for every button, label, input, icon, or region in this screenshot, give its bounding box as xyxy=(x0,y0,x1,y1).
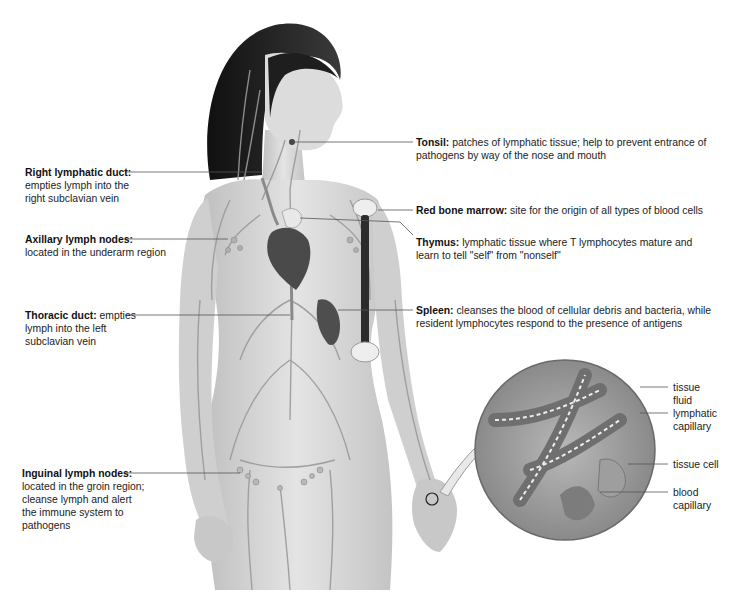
inset-label-blood-capillary: blood capillary xyxy=(673,486,711,512)
lymphatic-system-diagram: Right lymphatic duct: empties lymph into… xyxy=(0,0,736,601)
label-tonsil: Tonsil: patches of lymphatic tissue; hel… xyxy=(416,136,736,162)
label-title: Tonsil: xyxy=(416,137,449,148)
label-axillary-lymph-nodes: Axillary lymph nodes: located in the und… xyxy=(25,233,195,259)
label-title: Inguinal lymph nodes: xyxy=(22,468,132,479)
label-spleen: Spleen: cleanses the blood of cellular d… xyxy=(416,304,736,330)
label-thymus: Thymus: lymphatic tissue where T lymphoc… xyxy=(416,236,736,262)
label-title: Spleen: xyxy=(416,305,454,316)
label-thoracic-duct: Thoracic duct: empties lymph into the le… xyxy=(25,309,155,348)
inset-label-tissue-cell: tissue cell xyxy=(673,458,719,471)
label-title: Thoracic duct: xyxy=(25,310,97,321)
label-title: Red bone marrow: xyxy=(416,205,507,216)
label-title: Thymus: xyxy=(416,237,459,248)
label-title: Axillary lymph nodes: xyxy=(25,234,133,245)
tissue-inset xyxy=(475,360,655,540)
label-title: Right lymphatic duct: xyxy=(25,167,131,178)
inset-label-lymphatic-capillary: lymphatic capillary xyxy=(673,407,717,433)
label-red-bone-marrow: Red bone marrow: site for the origin of … xyxy=(416,204,736,217)
inset-label-tissue-fluid: tissue fluid xyxy=(673,381,700,407)
label-right-lymphatic-duct: Right lymphatic duct: empties lymph into… xyxy=(25,166,155,205)
label-inguinal-lymph-nodes: Inguinal lymph nodes: located in the gro… xyxy=(22,467,182,532)
